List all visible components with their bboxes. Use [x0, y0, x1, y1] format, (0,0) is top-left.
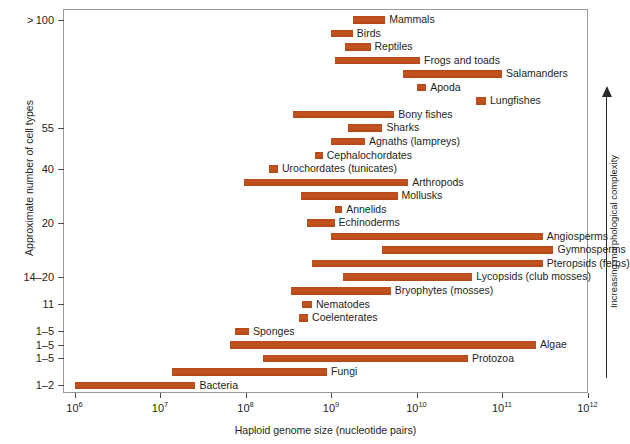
- bar-label: Bacteria: [199, 379, 238, 392]
- bar-row[interactable]: Echinoderms: [0, 216, 619, 229]
- bar-label: Sharks: [386, 121, 419, 134]
- bar[interactable]: [301, 192, 397, 200]
- bar-label: Agnaths (lampreys): [369, 135, 460, 148]
- complexity-annotation: Increasing morphological complexity: [596, 86, 618, 378]
- x-axis-tick-label: 1012: [577, 400, 598, 414]
- bar[interactable]: [302, 301, 312, 309]
- bar-row[interactable]: Birds: [0, 27, 619, 40]
- bar-row[interactable]: Protozoa: [0, 352, 619, 365]
- bar-label: Urochordates (tunicates): [282, 162, 397, 175]
- bar[interactable]: [263, 355, 468, 363]
- bar-row[interactable]: Coelenterates: [0, 311, 619, 324]
- bar-label: Frogs and toads: [424, 54, 500, 67]
- bar-label: Apoda: [430, 81, 460, 94]
- bar-label: Echinoderms: [339, 216, 400, 229]
- bar-label: Mollusks: [402, 189, 443, 202]
- bar-row[interactable]: Lungfishes: [0, 94, 619, 107]
- bar-label: Mammals: [389, 13, 435, 26]
- x-axis-tick-label: 107: [152, 400, 168, 414]
- x-axis-tick-label: 109: [323, 400, 339, 414]
- bar-label: Protozoa: [472, 352, 514, 365]
- bar[interactable]: [312, 260, 543, 268]
- bar-row[interactable]: Agnaths (lampreys): [0, 135, 619, 148]
- x-axis-title: Haploid genome size (nucleotide pairs): [63, 424, 588, 436]
- bar-row[interactable]: Lycopsids (club mosses): [0, 270, 619, 283]
- bar[interactable]: [331, 30, 353, 38]
- bar-label: Reptiles: [375, 40, 413, 53]
- bar-row[interactable]: Pteropsids (ferns): [0, 257, 619, 270]
- bar-label: Bony fishes: [398, 108, 452, 121]
- bar[interactable]: [403, 70, 502, 78]
- x-axis-tick-mark: [417, 393, 418, 398]
- bar-row[interactable]: Arthropods: [0, 176, 619, 189]
- bar-label: Cephalochordates: [327, 149, 412, 162]
- bar-label: Nematodes: [316, 298, 370, 311]
- bar-label: Salamanders: [506, 67, 568, 80]
- bar-label: Birds: [357, 27, 381, 40]
- bar[interactable]: [299, 314, 308, 322]
- bar-label: Algae: [540, 338, 567, 351]
- x-axis-tick-mark: [502, 393, 503, 398]
- bar-row[interactable]: Sponges: [0, 325, 619, 338]
- bar-row[interactable]: Gymnosperms: [0, 243, 619, 256]
- bar[interactable]: [269, 165, 278, 173]
- bar[interactable]: [382, 246, 553, 254]
- x-axis-tick-mark: [75, 393, 76, 398]
- bar[interactable]: [331, 233, 543, 241]
- bar-label: Sponges: [253, 325, 294, 338]
- bar-label: Lungfishes: [490, 94, 541, 107]
- bar-label: Arthropods: [412, 176, 463, 189]
- bar-row[interactable]: Bacteria: [0, 379, 619, 392]
- bar[interactable]: [345, 43, 371, 51]
- bar-row[interactable]: Nematodes: [0, 298, 619, 311]
- bar-row[interactable]: Urochordates (tunicates): [0, 162, 619, 175]
- x-axis-tick-label: 1010: [406, 400, 427, 414]
- x-axis-tick-label: 1011: [492, 400, 512, 414]
- complexity-annotation-label: Increasing morphological complexity: [608, 86, 619, 378]
- x-axis-tick-mark: [160, 393, 161, 398]
- bar[interactable]: [348, 124, 382, 132]
- bar-row[interactable]: Mollusks: [0, 189, 619, 202]
- bar-row[interactable]: Frogs and toads: [0, 54, 619, 67]
- bar-row[interactable]: Bony fishes: [0, 108, 619, 121]
- bar-row[interactable]: Angiosperms: [0, 230, 619, 243]
- bar-row[interactable]: Algae: [0, 338, 619, 351]
- bar[interactable]: [335, 206, 343, 214]
- bar-label: Bryophytes (mosses): [395, 284, 494, 297]
- bar[interactable]: [293, 111, 394, 119]
- bar[interactable]: [353, 16, 385, 24]
- bar-row[interactable]: Mammals: [0, 13, 619, 26]
- bar-row[interactable]: Cephalochordates: [0, 149, 619, 162]
- bar[interactable]: [331, 138, 365, 146]
- x-axis-tick-mark: [246, 393, 247, 398]
- x-axis-tick-label: 106: [66, 400, 82, 414]
- bar[interactable]: [476, 97, 486, 105]
- bar[interactable]: [230, 341, 537, 349]
- bar-label: Annelids: [346, 203, 386, 216]
- bar[interactable]: [315, 152, 323, 160]
- x-axis-tick-mark: [331, 393, 332, 398]
- bar-label: Lycopsids (club mosses): [476, 270, 591, 283]
- bar-row[interactable]: Annelids: [0, 203, 619, 216]
- bar[interactable]: [235, 328, 249, 336]
- bar[interactable]: [244, 179, 409, 187]
- bar-label: Coelenterates: [312, 311, 377, 324]
- bar[interactable]: [172, 368, 327, 376]
- bar-label: Fungi: [331, 365, 357, 378]
- bar-row[interactable]: Fungi: [0, 365, 619, 378]
- bar[interactable]: [343, 273, 472, 281]
- bar[interactable]: [335, 57, 421, 65]
- bar[interactable]: [291, 287, 391, 295]
- bar[interactable]: [417, 84, 427, 92]
- bar-row[interactable]: Apoda: [0, 81, 619, 94]
- bar[interactable]: [307, 219, 335, 227]
- bar-row[interactable]: Salamanders: [0, 67, 619, 80]
- bar-row[interactable]: Reptiles: [0, 40, 619, 53]
- x-axis-tick-label: 108: [237, 400, 253, 414]
- bar[interactable]: [75, 382, 196, 390]
- x-axis-tick-mark: [588, 393, 589, 398]
- bar-row[interactable]: Sharks: [0, 121, 619, 134]
- bar-row[interactable]: Bryophytes (mosses): [0, 284, 619, 297]
